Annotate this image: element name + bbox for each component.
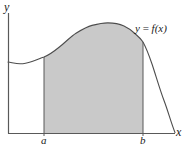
lower-limit-label-a: a xyxy=(41,135,47,146)
upper-limit-label-b: b xyxy=(140,135,146,146)
y-axis-label: y xyxy=(4,1,9,13)
curve-equation-label: y = f(x) xyxy=(135,23,167,34)
x-axis-label: x xyxy=(176,126,181,138)
curve-label-arg: (x) xyxy=(155,22,167,34)
curve-label-equals: = xyxy=(140,22,152,34)
shaded-area-under-curve xyxy=(44,23,143,133)
integral-area-figure: y x a b y = f(x) xyxy=(0,0,189,151)
